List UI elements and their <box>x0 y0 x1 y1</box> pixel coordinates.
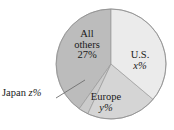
pie-label-japan-value: z% <box>29 87 42 98</box>
pie-label-us-value: x% <box>120 61 160 72</box>
pie-label-europe: Europe y% <box>83 92 129 113</box>
pie-label-japan-text: Japan z% <box>2 88 64 99</box>
pie-chart-figure: U.S. x% All others 27% Europe y% Japan z… <box>0 0 174 130</box>
pie-label-europe-value: y% <box>83 103 129 114</box>
pie-label-all-others-value: 27% <box>64 50 110 61</box>
pie-label-japan-name: Japan <box>2 87 29 98</box>
pie-label-all-others: All others 27% <box>64 29 110 61</box>
pie-label-japan: Japan z% <box>2 88 64 99</box>
pie-label-us: U.S. x% <box>120 50 160 71</box>
